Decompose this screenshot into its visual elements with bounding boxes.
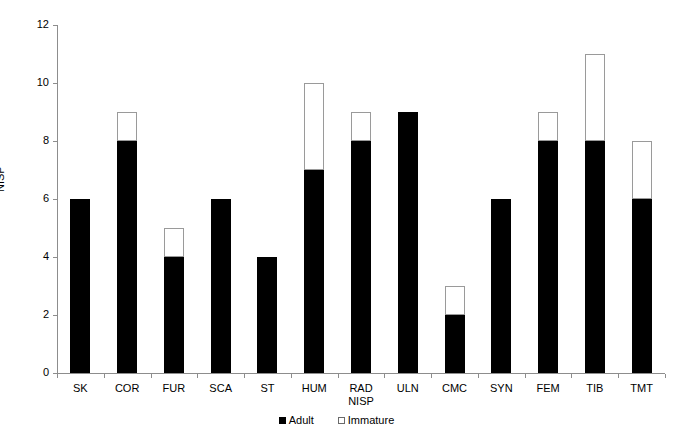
x-tick-mark <box>151 374 152 378</box>
x-tick-mark <box>291 374 292 378</box>
bar-group[interactable] <box>304 83 324 373</box>
bar-segment-immature[interactable] <box>304 83 324 170</box>
chart-legend: AdultImmature <box>0 414 673 426</box>
bar-group[interactable] <box>398 112 418 373</box>
y-tick-label: 4 <box>43 250 49 263</box>
legend-label: Immature <box>348 414 394 426</box>
filled-square-icon <box>279 417 286 424</box>
x-tick-label: TMT <box>618 382 665 395</box>
bar-group[interactable] <box>257 257 277 373</box>
bar-group[interactable] <box>117 112 137 373</box>
bar-segment-adult[interactable] <box>211 199 231 373</box>
bar-segment-immature[interactable] <box>117 112 137 141</box>
bar-group[interactable] <box>585 54 605 373</box>
plot-area <box>57 25 665 373</box>
x-tick-label: FEM <box>525 382 572 395</box>
x-tick-mark <box>338 374 339 378</box>
bar-segment-immature[interactable] <box>585 54 605 141</box>
bar-group[interactable] <box>538 112 558 373</box>
x-tick-label: ST <box>244 382 291 395</box>
x-tick-label: HUM <box>291 382 338 395</box>
x-tick-mark <box>571 374 572 378</box>
y-tick-label: 0 <box>43 366 49 379</box>
x-tick-mark <box>431 374 432 378</box>
bar-segment-adult[interactable] <box>117 141 137 373</box>
x-tick-mark <box>244 374 245 378</box>
legend-entry[interactable]: Immature <box>338 414 394 426</box>
bar-segment-immature[interactable] <box>538 112 558 141</box>
x-tick-mark <box>525 374 526 378</box>
bar-segment-adult[interactable] <box>304 170 324 373</box>
bar-segment-adult[interactable] <box>398 112 418 373</box>
x-tick-mark <box>665 374 666 378</box>
y-tick-label: 10 <box>37 76 49 89</box>
bar-segment-adult[interactable] <box>632 199 652 373</box>
bar-group[interactable] <box>164 228 184 373</box>
bar-segment-adult[interactable] <box>351 141 371 373</box>
bar-group[interactable] <box>211 199 231 373</box>
x-tick-label: CMC <box>431 382 478 395</box>
bar-group[interactable] <box>70 199 90 373</box>
legend-label: Adult <box>289 414 314 426</box>
bar-group[interactable] <box>351 112 371 373</box>
y-axis-title: NISP <box>0 166 6 192</box>
x-tick-label: RADNISP <box>338 382 385 408</box>
x-tick-mark <box>104 374 105 378</box>
y-tick-label: 2 <box>43 308 49 321</box>
x-tick-label: SYN <box>478 382 525 395</box>
bar-segment-adult[interactable] <box>538 141 558 373</box>
bar-segment-immature[interactable] <box>164 228 184 257</box>
bar-segment-immature[interactable] <box>445 286 465 315</box>
y-tick-label: 6 <box>43 192 49 205</box>
bar-group[interactable] <box>632 141 652 373</box>
bar-group[interactable] <box>445 286 465 373</box>
bar-segment-immature[interactable] <box>351 112 371 141</box>
bar-segment-adult[interactable] <box>70 199 90 373</box>
x-tick-label: SK <box>57 382 104 395</box>
x-tick-mark <box>384 374 385 378</box>
empty-square-icon <box>338 417 345 424</box>
bar-group[interactable] <box>491 199 511 373</box>
bar-segment-adult[interactable] <box>491 199 511 373</box>
x-axis-line <box>57 373 665 374</box>
x-tick-label: TIB <box>571 382 618 395</box>
bar-segment-immature[interactable] <box>632 141 652 199</box>
y-tick-label: 8 <box>43 134 49 147</box>
bar-segment-adult[interactable] <box>445 315 465 373</box>
chart-page: NISP 024681012 SKCORFURSCASTHUMRADNISPUL… <box>0 0 673 439</box>
x-axis-title: NISP <box>338 395 385 408</box>
x-tick-label: SCA <box>197 382 244 395</box>
x-tick-label: FUR <box>151 382 198 395</box>
x-tick-mark <box>197 374 198 378</box>
x-tick-mark <box>57 374 58 378</box>
bar-segment-adult[interactable] <box>257 257 277 373</box>
bar-segment-adult[interactable] <box>164 257 184 373</box>
x-tick-mark <box>478 374 479 378</box>
x-tick-label: ULN <box>384 382 431 395</box>
bar-segment-adult[interactable] <box>585 141 605 373</box>
y-tick-label: 12 <box>37 18 49 31</box>
legend-entry[interactable]: Adult <box>279 414 314 426</box>
x-tick-label: COR <box>104 382 151 395</box>
x-tick-mark <box>618 374 619 378</box>
